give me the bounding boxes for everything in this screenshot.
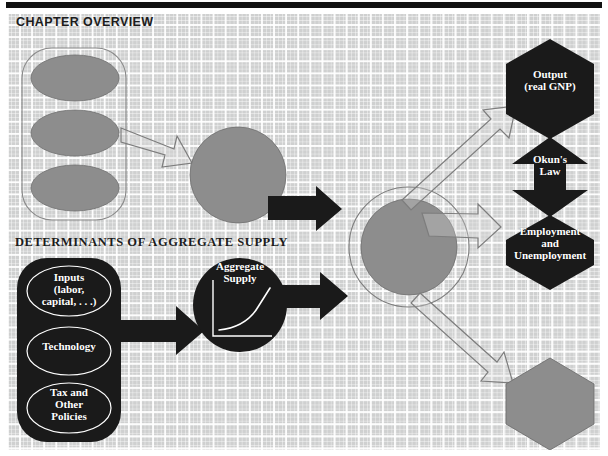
overview-ellipse-2: [31, 110, 119, 156]
chapter-overview-heading: CHAPTER OVERVIEW: [16, 15, 153, 29]
diagram-artwork: [0, 0, 608, 456]
okun-law-double-arrow: [512, 137, 588, 217]
output-hexagon: [506, 39, 594, 139]
arrow-overview-to-demand-circle: [121, 128, 192, 167]
arrow-supply-to-supply-circle: [112, 306, 204, 355]
arrow-equilibrium-to-price-hexagon: [411, 293, 513, 383]
overview-ellipse-1: [31, 55, 119, 101]
figure-canvas: CHAPTER OVERVIEW DETERMINANTS OF AGGREGA…: [0, 0, 608, 456]
overview-ellipse-3: [31, 165, 119, 211]
aggregate-supply-circle: [193, 258, 287, 352]
supply-ellipse-container: [17, 258, 121, 442]
arrow-supply-circle-to-equilibrium: [276, 272, 348, 320]
determinants-heading: DETERMINANTS OF AGGREGATE SUPPLY: [15, 235, 288, 250]
employment-hexagon: [506, 215, 594, 290]
arrow-equilibrium-to-output: [402, 106, 516, 210]
price-level-hexagon: [506, 358, 594, 450]
